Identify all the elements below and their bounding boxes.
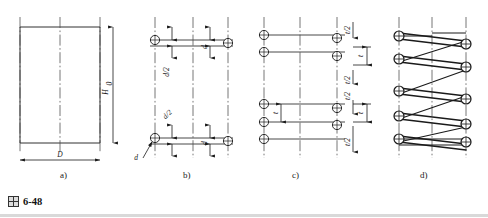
panel-c-dim-t-half-mid-label: t/2 <box>343 76 352 84</box>
figure-caption: 6-48 <box>8 196 42 207</box>
panel-b-centerlines <box>155 17 228 158</box>
panel-c-centerlines <box>264 17 337 158</box>
panel-b-dim-d-half-upper-label: d/2 <box>162 67 171 77</box>
panel-c-dim-t-left-label: t <box>271 111 280 114</box>
panel-label-c: c) <box>292 170 299 180</box>
panel-c-circle-cross-marks <box>259 30 341 143</box>
panel-a-centerlines <box>20 17 100 153</box>
cjk-tu-icon <box>8 196 19 207</box>
panel-c-dim-t-half-top-label: t/2 <box>343 26 352 34</box>
panel-label-d: d) <box>420 170 428 180</box>
panel-d-coil-lines <box>399 33 466 150</box>
panel-c-dim-t-right-upper-label: t <box>356 54 365 57</box>
panel-label-a: a) <box>60 170 67 180</box>
panel-c-dim-t-half-lower-label: t/2 <box>343 92 352 100</box>
panel-c-construction-lines <box>259 35 345 139</box>
figure-drawing-canvas: H 0 D <box>0 0 488 218</box>
panel-b-wire-leader-label: d <box>134 153 138 162</box>
panel-d-group <box>394 17 471 158</box>
panel-a-dim-H0-subscript: 0 <box>105 82 114 86</box>
panel-b-group: d/2 d d/2 d d <box>134 17 233 162</box>
panel-b-wire-circles <box>150 35 232 145</box>
panel-c-dim-t-half-bottom-label: t/2 <box>343 138 352 146</box>
panel-b-wire-leader-line <box>143 142 152 158</box>
panel-b-circle-cross-marks <box>150 35 232 145</box>
panel-c-dim-right-stack <box>353 22 371 152</box>
panel-a-group: H 0 D <box>20 17 114 160</box>
panel-label-b: b) <box>183 170 191 180</box>
panel-b-dim-d-lower-label: d <box>200 141 209 145</box>
panel-a-dim-D-label: D <box>56 150 63 159</box>
panel-b-construction-lines <box>150 40 233 144</box>
panel-b-dim-d-half-lower-label: d/2 <box>161 107 174 120</box>
panel-c-dim-t-right-lower-label: t <box>356 111 365 114</box>
footer-rule <box>0 214 488 217</box>
panel-a-dim-H0-label: H <box>101 89 110 96</box>
figure-root: H 0 D <box>0 0 488 218</box>
panel-c-group: t/2 t t/2 t/2 t t/2 t <box>259 17 371 158</box>
figure-caption-number: 6-48 <box>23 196 42 207</box>
panel-c-wire-circles <box>259 30 341 143</box>
panel-b-dim-d-upper-label: d <box>200 45 209 49</box>
